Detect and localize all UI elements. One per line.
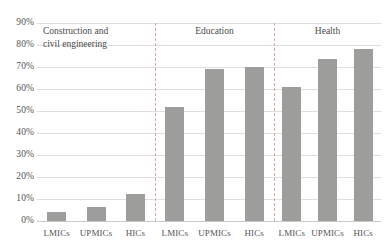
group-title: Education	[155, 25, 274, 38]
y-axis-tick-label: 90%	[0, 18, 34, 28]
bar-chart: 90%80%70%60%50%40%30%20%10%0% LMICsUPMIC…	[0, 0, 386, 251]
bar	[47, 212, 66, 221]
group-title-line: civil engineering	[43, 38, 148, 51]
bar	[318, 59, 337, 221]
y-axis-tick-label: 10%	[0, 194, 34, 204]
x-axis-tick-label: HICs	[333, 228, 386, 239]
y-axis-tick-label: 80%	[0, 40, 34, 50]
y-axis-tick-label: 40%	[0, 128, 34, 138]
y-axis-tick-label: 60%	[0, 84, 34, 94]
bar	[282, 87, 301, 221]
y-axis-tick-label: 70%	[0, 62, 34, 72]
group-title: Construction andcivil engineering	[43, 25, 148, 51]
plot-area	[37, 23, 381, 221]
group-separator	[274, 23, 275, 221]
bar	[87, 207, 106, 221]
y-axis-tick-label: 30%	[0, 150, 34, 160]
bar	[245, 67, 264, 221]
y-axis-tick-label: 0%	[0, 216, 34, 226]
bar	[126, 194, 145, 222]
group-title: Health	[274, 25, 381, 38]
bar	[205, 69, 224, 221]
y-axis-tick-label: 50%	[0, 106, 34, 116]
group-separator	[155, 23, 156, 221]
group-title-line: Construction and	[43, 25, 148, 38]
y-axis: 90%80%70%60%50%40%30%20%10%0%	[0, 23, 34, 221]
y-axis-tick-label: 20%	[0, 172, 34, 182]
bar	[165, 107, 184, 221]
bar	[354, 49, 373, 221]
gridline	[37, 23, 381, 24]
